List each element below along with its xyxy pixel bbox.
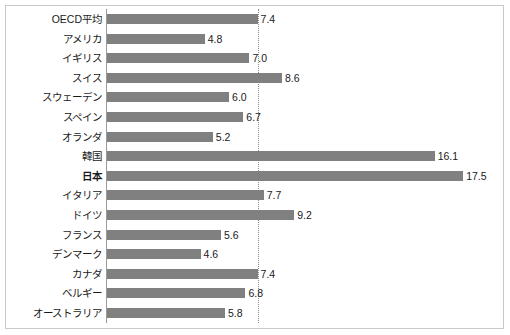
bar [107, 210, 294, 220]
bar [107, 190, 264, 200]
category-label: 日本 [0, 169, 102, 183]
bar-value-label: 5.6 [224, 228, 239, 242]
bar-row: OECD平均7.4 [0, 9, 510, 29]
bar-row: 韓国16.1 [0, 146, 510, 166]
bar [107, 151, 435, 161]
bar [107, 230, 221, 240]
bar-row: オーストラリア5.8 [0, 303, 510, 323]
bar [107, 14, 258, 24]
category-label: アメリカ [0, 32, 102, 46]
bar-value-label: 7.4 [261, 267, 276, 281]
category-label: スペイン [0, 110, 102, 124]
bar-row: スペイン6.7 [0, 107, 510, 127]
category-label: ドイツ [0, 208, 102, 222]
bar [107, 73, 282, 83]
bar [107, 171, 463, 181]
bar-row: デンマーク4.6 [0, 244, 510, 264]
bar [107, 112, 243, 122]
bar-value-label: 7.4 [261, 12, 276, 26]
bar-value-label: 7.7 [267, 188, 282, 202]
bar-row: イタリア7.7 [0, 185, 510, 205]
category-label: イタリア [0, 188, 102, 202]
bar-value-label: 8.6 [285, 71, 300, 85]
chart-figure: OECD平均7.4アメリカ4.8イギリス7.0スイス8.6スウェーデン6.0スペ… [0, 0, 510, 335]
bar-value-label: 17.5 [466, 169, 486, 183]
bar-row: スイス8.6 [0, 68, 510, 88]
bar-value-label: 5.2 [216, 130, 231, 144]
bar-row: 日本17.5 [0, 166, 510, 186]
bar [107, 308, 225, 318]
bar-value-label: 5.8 [228, 306, 243, 320]
bar-row: オランダ5.2 [0, 127, 510, 147]
category-label: イギリス [0, 51, 102, 65]
bar-row: ベルギー6.8 [0, 283, 510, 303]
bar-value-label: 9.2 [297, 208, 312, 222]
bar-row: カナダ7.4 [0, 264, 510, 284]
bar [107, 34, 205, 44]
bar-row: ドイツ9.2 [0, 205, 510, 225]
bar-value-label: 6.8 [248, 286, 263, 300]
category-label: ベルギー [0, 286, 102, 300]
bar-row: イギリス7.0 [0, 48, 510, 68]
category-label: オランダ [0, 130, 102, 144]
bar-value-label: 6.7 [246, 110, 261, 124]
bar-value-label: 4.8 [208, 32, 223, 46]
category-label: OECD平均 [0, 12, 102, 26]
bar-row: スウェーデン6.0 [0, 87, 510, 107]
bar [107, 288, 245, 298]
bar [107, 92, 229, 102]
category-label: カナダ [0, 267, 102, 281]
plot-area: OECD平均7.4アメリカ4.8イギリス7.0スイス8.6スウェーデン6.0スペ… [0, 0, 510, 335]
bar-row: アメリカ4.8 [0, 29, 510, 49]
bar-value-label: 7.0 [252, 51, 267, 65]
bar [107, 132, 213, 142]
category-label: フランス [0, 228, 102, 242]
category-label: スイス [0, 71, 102, 85]
category-label: スウェーデン [0, 90, 102, 104]
bar [107, 249, 201, 259]
category-label: 韓国 [0, 149, 102, 163]
bar-value-label: 16.1 [438, 149, 458, 163]
category-label: デンマーク [0, 247, 102, 261]
bar-value-label: 4.6 [204, 247, 219, 261]
category-label: オーストラリア [0, 306, 102, 320]
bar [107, 53, 249, 63]
bar-row: フランス5.6 [0, 225, 510, 245]
bar [107, 269, 258, 279]
bar-value-label: 6.0 [232, 90, 247, 104]
